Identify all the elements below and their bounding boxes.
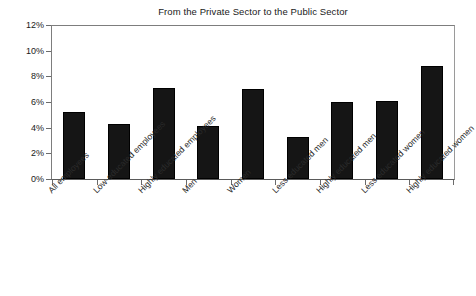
chart-title: From the Private Sector to the Public Se…	[51, 6, 455, 17]
y-tick-mark	[46, 102, 51, 103]
bar	[242, 89, 264, 179]
y-tick-mark	[46, 179, 51, 180]
y-tick-mark	[46, 25, 51, 26]
y-tick-mark	[46, 153, 51, 154]
y-tick-label: 10%	[0, 46, 44, 56]
x-axis-labels: All employeesLow-educated employeesHighl…	[0, 180, 476, 296]
y-tick-mark	[46, 51, 51, 52]
y-tick-label: 2%	[0, 148, 44, 158]
y-tick-label: 4%	[0, 123, 44, 133]
y-axis: 0%2%4%6%8%10%12%	[0, 25, 44, 180]
y-tick-label: 6%	[0, 97, 44, 107]
y-tick-label: 8%	[0, 71, 44, 81]
y-tick-mark	[46, 76, 51, 77]
y-tick-label: 12%	[0, 20, 44, 30]
y-tick-mark	[46, 128, 51, 129]
bar-chart: From the Private Sector to the Public Se…	[0, 0, 476, 296]
